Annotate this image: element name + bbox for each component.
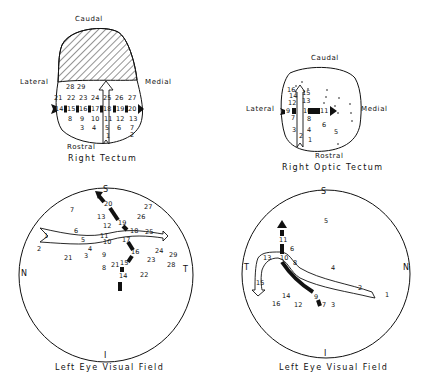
point-label: 22 xyxy=(140,271,148,279)
point-label: 12 xyxy=(116,115,124,123)
point-label: 24 xyxy=(91,94,99,102)
point-label: 16 xyxy=(79,105,87,113)
point-label: 7 xyxy=(70,206,74,214)
label-superior: S xyxy=(103,185,108,194)
point-label: 17 xyxy=(122,236,130,244)
label-lateral: Lateral xyxy=(246,105,275,113)
point-label: 16 xyxy=(272,300,280,308)
point-label: 4 xyxy=(88,245,92,253)
label-superior: S xyxy=(321,187,326,196)
point-label: 29 xyxy=(77,83,85,91)
label-caudal: Caudal xyxy=(311,54,339,62)
point-label: 14 xyxy=(282,292,290,300)
point-label: 29 xyxy=(169,251,177,259)
point-label: 8 xyxy=(293,259,297,267)
point-label: 11 xyxy=(279,236,287,244)
visual-field-circle xyxy=(242,190,410,358)
label-rostral: Rostral xyxy=(67,143,96,151)
point-label: 1 xyxy=(308,136,312,144)
point-label: 18 xyxy=(130,227,138,235)
label-inferior: I xyxy=(324,349,326,358)
point-label: 13 xyxy=(263,254,271,262)
point-label: 5 xyxy=(334,128,338,136)
point-label: 4 xyxy=(331,264,335,272)
point-label: 3 xyxy=(292,126,296,134)
point-label: 20 xyxy=(128,105,136,113)
point-label: 28 xyxy=(66,83,74,91)
point-label: 14 xyxy=(119,272,127,280)
label-inferior: I xyxy=(104,351,106,360)
point-label: 3 xyxy=(80,124,84,132)
label-medial: Medial xyxy=(145,78,172,86)
point-label: 6 xyxy=(74,227,78,235)
label-temporal: T xyxy=(243,263,249,272)
point-label: 23 xyxy=(147,256,155,264)
point-label: 9 xyxy=(102,251,106,259)
point-label: 22 xyxy=(67,94,75,102)
electrode-points: 2829212223242526271415161718192089101112… xyxy=(54,83,137,140)
point-label: 15 xyxy=(256,279,264,287)
label-caudal: Caudal xyxy=(75,15,103,23)
point-label: 15 xyxy=(120,259,128,267)
point-label: 10 xyxy=(91,115,99,123)
point-label: 15 xyxy=(302,89,310,97)
point-label: 3 xyxy=(84,252,88,260)
label-lateral: Lateral xyxy=(20,78,49,86)
panel-left-eye-visual-field-1: S N T I Left Eye Visual Field 2072713261… xyxy=(19,185,193,372)
point-label: 13 xyxy=(302,97,310,105)
hatched-caudal-region xyxy=(58,28,137,82)
point-label: 6 xyxy=(290,245,294,253)
point-label: 26 xyxy=(115,94,123,102)
arrowhead-superior xyxy=(277,220,287,228)
point-label: 8 xyxy=(68,115,72,123)
point-label: 14 xyxy=(55,105,63,113)
point-label: 13 xyxy=(97,213,105,221)
figure-canvas: Caudal Lateral Medial Rostral Right Tect… xyxy=(0,0,421,387)
point-label: 20 xyxy=(104,200,112,208)
caption-right-optic-tectum: Right Optic Tectum xyxy=(282,163,383,172)
point-label: 9 xyxy=(80,115,84,123)
point-label: 3 xyxy=(331,301,335,309)
point-label: 10 xyxy=(303,107,311,115)
point-label: 6 xyxy=(322,121,326,129)
point-label: 8 xyxy=(102,264,106,272)
panel-right-tectum: Caudal Lateral Medial Rostral Right Tect… xyxy=(20,15,172,163)
label-temporal: T xyxy=(182,265,188,274)
point-label: 21 xyxy=(111,261,119,269)
panel-right-optic-tectum: Caudal Lateral Medial Rostral Right Opti… xyxy=(246,54,388,172)
point-label: 5 xyxy=(81,236,85,244)
point-label: 2 xyxy=(37,245,41,253)
point-label: 27 xyxy=(144,203,152,211)
point-label: 4 xyxy=(92,124,96,132)
panel-left-eye-visual-field-2: S T N I Left Eye Visual Field 5116131084… xyxy=(242,187,410,372)
caption-right-tectum: Right Tectum xyxy=(68,154,137,163)
label-rostral: Rostral xyxy=(315,152,344,160)
point-label: 12 xyxy=(103,222,111,230)
point-label: 2 xyxy=(299,132,303,140)
point-label: 5 xyxy=(324,217,328,225)
point-label: 25 xyxy=(103,94,111,102)
point-label: 26 xyxy=(137,213,145,221)
point-label: 21 xyxy=(64,254,72,262)
point-label: 12 xyxy=(294,301,302,309)
caption-left-eye-visual-field-1: Left Eye Visual Field xyxy=(55,363,164,372)
point-label: 4 xyxy=(307,126,311,134)
point-label: 24 xyxy=(155,247,163,255)
point-label: 15 xyxy=(67,105,75,113)
point-label: 1 xyxy=(106,132,110,140)
point-label: 19 xyxy=(116,105,124,113)
point-label: 9 xyxy=(286,107,290,115)
label-medial: Medial xyxy=(361,105,388,113)
point-label: 2 xyxy=(130,131,134,139)
point-label: 11 xyxy=(320,107,328,115)
point-label: 13 xyxy=(129,115,137,123)
point-label: 28 xyxy=(167,261,175,269)
label-nasal: N xyxy=(21,269,27,278)
point-label: 19 xyxy=(118,219,126,227)
point-label: 1 xyxy=(385,291,389,299)
point-label: 6 xyxy=(117,124,121,132)
point-label: 25 xyxy=(145,228,153,236)
point-label: 9 xyxy=(314,293,318,301)
point-label: 23 xyxy=(79,94,87,102)
point-label: 16 xyxy=(131,248,139,256)
